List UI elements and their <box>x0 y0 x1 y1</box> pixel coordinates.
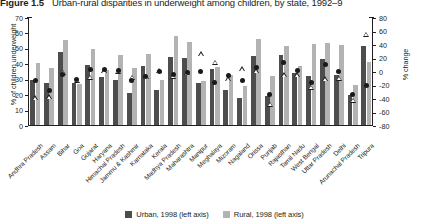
bar-urban <box>168 57 173 125</box>
marker-filled-circle-urban-change <box>33 78 38 83</box>
bar-rural <box>229 75 234 125</box>
bar-group <box>277 18 291 125</box>
bar-group <box>57 18 71 125</box>
bar-group <box>264 18 278 125</box>
bar-group <box>305 18 319 125</box>
marker-filled-circle-urban-change <box>171 72 176 77</box>
bar-rural <box>270 76 275 125</box>
legend-item-rural: Rural, 1998 (left axis) <box>223 210 304 219</box>
marker-open-triangle-rural-change <box>281 72 287 77</box>
y-axis-right-tick-label: 60 <box>379 28 395 35</box>
bar-urban <box>58 52 63 125</box>
bar-group <box>153 18 167 125</box>
bar-group <box>250 18 264 125</box>
bar-urban <box>265 96 270 125</box>
marker-open-triangle-rural-change <box>212 60 218 65</box>
marker-filled-circle-urban-change <box>116 68 121 73</box>
marker-open-triangle-rural-change <box>87 75 93 80</box>
bar-group <box>291 18 305 125</box>
marker-filled-circle-urban-change <box>198 69 203 74</box>
bar-urban <box>154 90 159 125</box>
y-axis-left-tick-label: 30 <box>7 76 23 83</box>
bar-rural <box>284 46 289 125</box>
figure-root: Figure 1.5 Urban-rural disparities in un… <box>0 0 429 224</box>
bar-urban <box>279 55 284 125</box>
bar-group <box>98 18 112 125</box>
marker-filled-circle-urban-change <box>47 88 52 93</box>
bar-rural <box>243 86 248 125</box>
bar-urban <box>210 69 215 125</box>
y-axis-right-tick-label: -80 <box>379 123 395 130</box>
y-axis-left-tick-label: 20 <box>7 92 23 99</box>
bar-rural <box>174 36 179 125</box>
y-axis-right-tick-mark <box>373 126 376 127</box>
bar-group <box>346 18 360 125</box>
y-axis-left-tick-label: 50 <box>7 45 23 52</box>
marker-filled-circle-urban-change <box>60 72 65 77</box>
bar-urban <box>223 90 228 125</box>
bar-rural <box>105 70 110 125</box>
bar-urban <box>113 80 118 126</box>
bar-urban <box>85 65 90 125</box>
bar-rural <box>146 54 151 125</box>
bar-urban <box>30 80 35 125</box>
marker-open-triangle-rural-change <box>198 51 204 56</box>
bar-urban <box>196 83 201 125</box>
bar-group <box>126 18 140 125</box>
marker-open-triangle-rural-change <box>267 102 273 107</box>
y-axis-right-tick-label: 20 <box>379 55 395 62</box>
marker-filled-circle-urban-change <box>240 78 245 83</box>
y-axis-left-tick-mark <box>25 126 28 127</box>
bar-group <box>43 18 57 125</box>
bar-group <box>333 18 347 125</box>
marker-open-triangle-rural-change <box>336 76 342 81</box>
bar-group <box>195 18 209 125</box>
figure-caption: Urban-rural disparities in underweight a… <box>52 0 342 8</box>
bar-group <box>360 18 374 125</box>
marker-open-triangle-rural-change <box>322 76 328 81</box>
figure-number: Figure 1.5 <box>0 0 44 8</box>
bar-group <box>84 18 98 125</box>
bar-group <box>139 18 153 125</box>
bar-rural <box>77 84 82 125</box>
bar-rural <box>325 43 330 125</box>
marker-open-triangle-rural-change <box>239 66 245 71</box>
bar-rural <box>367 62 372 125</box>
chart-plot-wrapper: % of children underweight % change 01020… <box>0 14 429 146</box>
y-axis-left-tick-label: 70 <box>7 15 23 22</box>
bar-rural <box>187 42 192 125</box>
marker-filled-circle-urban-change <box>350 92 355 97</box>
legend-item-urban: Urban, 1998 (left axis) <box>125 210 208 219</box>
y-axis-left-tick-label: 60 <box>7 30 23 37</box>
bar-group <box>208 18 222 125</box>
bar-rural <box>256 39 261 125</box>
legend-swatch-urban-icon <box>125 211 132 218</box>
bar-rural <box>160 80 165 125</box>
y-axis-right-tick-label: 40 <box>379 42 395 49</box>
bar-urban <box>334 75 339 125</box>
x-axis-category-label: Andhra Pradesh <box>6 142 44 180</box>
marker-filled-circle-urban-change <box>157 69 162 74</box>
bar-urban <box>182 58 187 125</box>
y-axis-left-tick-label: 40 <box>7 61 23 68</box>
bar-rural <box>36 63 41 125</box>
bar-group <box>222 18 236 125</box>
bar-group <box>181 18 195 125</box>
bar-urban <box>320 59 325 125</box>
y-axis-right-tick-label: -40 <box>379 96 395 103</box>
bar-urban <box>292 73 297 125</box>
x-axis-category-labels: Andhra PradeshAssamBiharGoaGujaratHaryan… <box>28 140 373 214</box>
figure-title-bar: Figure 1.5 Urban-rural disparities in un… <box>0 0 429 11</box>
marker-filled-circle-urban-change <box>226 73 231 78</box>
y-axis-right-tick-label: 0 <box>379 69 395 76</box>
x-axis-category-label: Bihar <box>56 142 71 157</box>
y-axis-right-tick-label: 80 <box>379 15 395 22</box>
bar-rural <box>353 85 358 125</box>
marker-open-triangle-rural-change <box>350 98 356 103</box>
legend-label-urban: Urban, 1998 (left axis) <box>136 210 208 219</box>
bar-rural <box>91 49 96 125</box>
chart-legend: Urban, 1998 (left axis)Rural, 1998 (left… <box>0 208 429 220</box>
bar-urban <box>99 77 104 125</box>
marker-filled-circle-urban-change <box>364 83 369 88</box>
bar-urban <box>237 98 242 125</box>
